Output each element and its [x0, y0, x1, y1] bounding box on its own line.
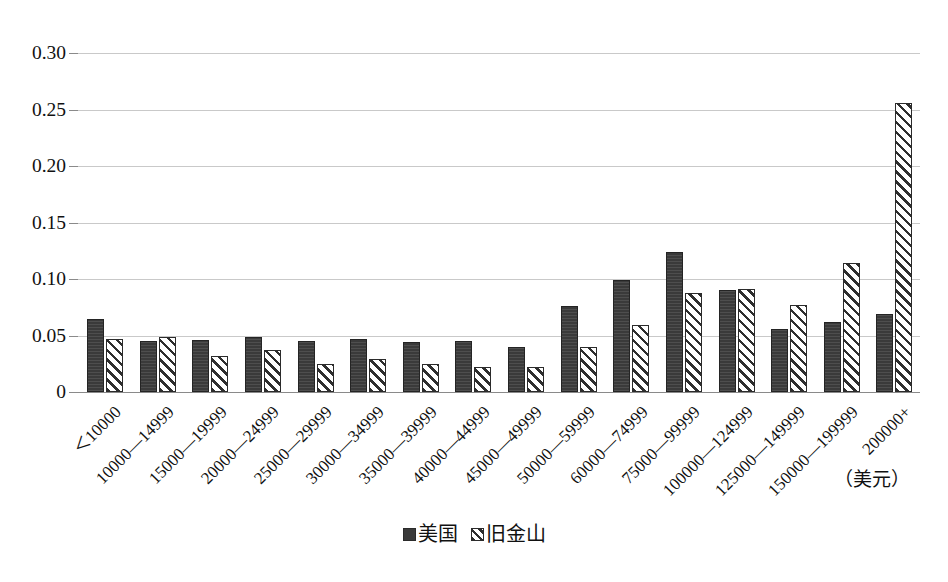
bar-san-francisco: [159, 337, 176, 392]
bar-us: [824, 322, 841, 392]
x-axis-tick-label: 30000—34999: [93, 403, 388, 582]
bar-group: [350, 53, 393, 392]
bar-us: [613, 280, 630, 392]
x-axis-tick-label: 100000—124999: [461, 403, 756, 582]
bar-us: [455, 341, 472, 392]
bar-group: [666, 53, 709, 392]
y-axis-tick-mark: [69, 166, 78, 167]
legend-label: 旧金山: [486, 524, 546, 544]
y-axis-tick-mark: [69, 392, 78, 393]
x-axis-tick-label: ＜10000: [0, 403, 124, 582]
legend-item: 美国: [403, 524, 458, 544]
legend-swatch-hatched-icon: [471, 528, 484, 541]
bar-group: [245, 53, 288, 392]
y-axis-tick-label: 0.25: [2, 100, 66, 120]
y-axis-tick-mark: [69, 110, 78, 111]
bar-us: [87, 319, 104, 392]
bar-san-francisco: [895, 103, 912, 392]
y-axis-tick-mark: [69, 53, 78, 54]
y-axis-tick-mark: [69, 279, 78, 280]
bar-san-francisco: [264, 350, 281, 392]
bar-us: [876, 314, 893, 392]
bar-group: [719, 53, 762, 392]
bar-group: [613, 53, 656, 392]
x-axis-tick-label: 25000—29999: [40, 403, 335, 582]
bar-san-francisco: [790, 305, 807, 392]
bar-san-francisco: [106, 339, 123, 392]
bar-us: [666, 252, 683, 392]
bar-group: [87, 53, 130, 392]
x-axis-tick-label: 150000—199999: [566, 403, 861, 582]
bar-group: [192, 53, 235, 392]
bar-us: [403, 342, 420, 392]
bar-group: [455, 53, 498, 392]
bar-san-francisco: [843, 263, 860, 392]
y-axis-tick-label: 0.05: [2, 326, 66, 346]
bar-san-francisco: [317, 364, 334, 392]
bar-us: [508, 347, 525, 392]
y-axis-tick-label: 0.10: [2, 269, 66, 289]
x-axis-tick-label: 75000—99999: [408, 403, 703, 582]
bar-san-francisco: [632, 325, 649, 392]
bar-group: [298, 53, 341, 392]
x-axis-tick-label: 35000—39999: [145, 403, 440, 582]
bar-group: [824, 53, 867, 392]
unit-annotation: （美元）: [834, 470, 910, 489]
bar-san-francisco: [211, 356, 228, 392]
x-axis-tick-label: 50000—59999: [303, 403, 598, 582]
bar-group: [403, 53, 446, 392]
bar-san-francisco: [685, 293, 702, 392]
x-axis-tick-label: 200000+: [619, 403, 914, 582]
y-axis-tick-label: 0.20: [2, 156, 66, 176]
bar-group: [508, 53, 551, 392]
bar-group: [771, 53, 814, 392]
bar-san-francisco: [580, 347, 597, 392]
y-axis-tick-mark: [69, 223, 78, 224]
bar-us: [719, 290, 736, 392]
y-axis-tick-label: 0.30: [2, 43, 66, 63]
y-axis-tick-label: 0: [2, 382, 66, 402]
bar-group: [561, 53, 604, 392]
y-axis-tick-label: 0.15: [2, 213, 66, 233]
gridline: [78, 392, 920, 393]
bar-san-francisco: [422, 364, 439, 392]
legend-label: 美国: [418, 524, 458, 544]
plot-area: [78, 53, 920, 392]
bar-san-francisco: [474, 367, 491, 392]
x-axis-tick-label: 60000—74999: [356, 403, 651, 582]
bar-group: [876, 53, 919, 392]
chart-legend: 美国旧金山: [0, 524, 948, 544]
bar-us: [561, 306, 578, 392]
bar-us: [350, 339, 367, 392]
x-axis-tick-label: 125000—149999: [514, 403, 809, 582]
legend-swatch-solid-icon: [403, 528, 416, 541]
legend-item: 旧金山: [471, 524, 546, 544]
x-axis-tick-label: 15000—19999: [0, 403, 230, 582]
bar-us: [298, 341, 315, 392]
bar-chart: 00.050.100.150.200.250.30 ＜1000010000—14…: [0, 0, 948, 582]
bar-us: [192, 340, 209, 392]
bar-group: [140, 53, 183, 392]
x-axis-tick-label: 40000—44999: [198, 403, 493, 582]
bar-us: [771, 329, 788, 392]
x-axis-tick-label: 45000—49999: [250, 403, 545, 582]
bar-san-francisco: [369, 359, 386, 392]
x-axis-tick-label: 10000—14999: [0, 403, 177, 582]
bar-san-francisco: [527, 367, 544, 392]
bar-us: [245, 337, 262, 392]
bar-san-francisco: [738, 289, 755, 392]
x-axis-tick-label: 20000—24999: [0, 403, 282, 582]
y-axis-tick-mark: [69, 336, 78, 337]
bar-us: [140, 341, 157, 392]
